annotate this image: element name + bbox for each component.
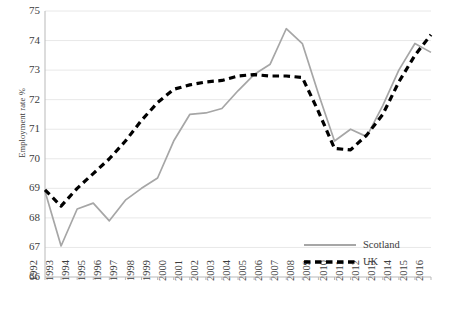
dashed-line-swatch — [304, 257, 356, 267]
legend-item-scotland: Scotland — [304, 236, 400, 253]
solid-line-swatch — [304, 240, 356, 250]
legend-label-uk: UK — [363, 257, 378, 267]
employment-rate-line-chart: Employment rate % 75747372717069686766 1… — [0, 0, 456, 323]
legend-item-uk: UK — [304, 253, 400, 270]
data-series-layer — [45, 29, 431, 246]
legend-label-scotland: Scotland — [363, 240, 400, 250]
series-line-scotland — [45, 29, 431, 246]
chart-legend: ScotlandUK — [304, 236, 400, 270]
series-line-uk — [45, 35, 431, 206]
plot-area — [0, 0, 456, 323]
